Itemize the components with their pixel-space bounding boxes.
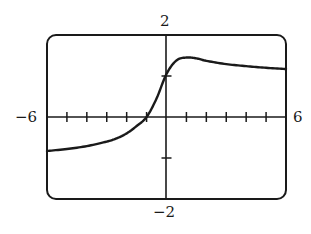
y-min-label: −2: [153, 205, 175, 220]
x-min-label: −6: [15, 110, 37, 125]
y-max-label: 2: [160, 14, 170, 29]
graph-window: [0, 0, 311, 234]
x-max-label: 6: [293, 110, 303, 125]
